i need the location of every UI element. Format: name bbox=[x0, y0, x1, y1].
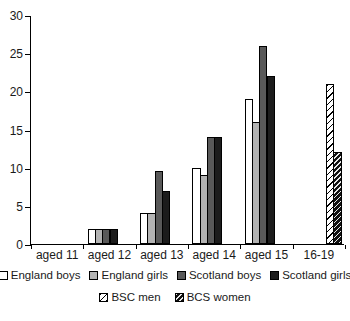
legend-item-scotland-girls: Scotland girls bbox=[270, 268, 350, 282]
x-axis-label-aged-14: aged 14 bbox=[188, 248, 240, 262]
legend-swatch-scotland-boys bbox=[177, 271, 186, 280]
legend-label: BCS women bbox=[187, 290, 251, 304]
legend-label: Scotland boys bbox=[189, 268, 261, 282]
bar-scotland-girls-aged-14 bbox=[214, 137, 222, 244]
y-axis-tick-label: 25 bbox=[0, 48, 23, 60]
legend-swatch-england-boys bbox=[0, 271, 8, 280]
legend-label: Scotland girls bbox=[282, 268, 350, 282]
legend-swatch-bsc-men bbox=[99, 293, 108, 302]
legend-swatch-bcs-women bbox=[175, 293, 184, 302]
legend-label: England boys bbox=[11, 268, 81, 282]
y-axis-tick-label: 15 bbox=[0, 125, 23, 137]
legend-swatch-england-girls bbox=[89, 271, 98, 280]
bar-scotland-girls-aged-15 bbox=[267, 76, 275, 244]
y-axis-tick bbox=[25, 16, 31, 17]
y-axis-tick bbox=[25, 169, 31, 170]
x-axis-label-16-19: 16-19 bbox=[293, 248, 345, 262]
y-axis-tick-label: 0 bbox=[0, 239, 23, 251]
legend-item-scotland-boys: Scotland boys bbox=[177, 268, 261, 282]
bar-bcs-women-16-19 bbox=[333, 152, 341, 244]
legend-swatch-scotland-girls bbox=[270, 271, 279, 280]
y-axis-tick bbox=[25, 207, 31, 208]
plot-area: 051015202530aged 11aged 12aged 13aged 14… bbox=[30, 16, 344, 245]
x-axis-label-aged-11: aged 11 bbox=[31, 248, 83, 262]
bar-chart: 051015202530aged 11aged 12aged 13aged 14… bbox=[0, 0, 350, 321]
y-axis-tick-label: 20 bbox=[0, 86, 23, 98]
legend-label: BSC men bbox=[111, 290, 160, 304]
y-axis-tick bbox=[25, 54, 31, 55]
legend-label: England girls bbox=[101, 268, 167, 282]
y-axis-tick-label: 5 bbox=[0, 201, 23, 213]
legend-item-bcs-women: BCS women bbox=[175, 290, 251, 304]
legend-row-1: England boysEngland girlsScotland boysSc… bbox=[0, 268, 350, 282]
y-axis-tick-label: 30 bbox=[0, 10, 23, 22]
y-axis-tick-label: 10 bbox=[0, 163, 23, 175]
bar-scotland-girls-aged-13 bbox=[162, 191, 170, 244]
legend-item-england-boys: England boys bbox=[0, 268, 80, 282]
legend-item-england-girls: England girls bbox=[89, 268, 167, 282]
x-axis-label-aged-12: aged 12 bbox=[83, 248, 135, 262]
y-axis-tick bbox=[25, 131, 31, 132]
legend-item-bsc-men: BSC men bbox=[99, 290, 160, 304]
x-axis-label-aged-13: aged 13 bbox=[136, 248, 188, 262]
bar-scotland-girls-aged-12 bbox=[110, 229, 118, 244]
y-axis-tick bbox=[25, 92, 31, 93]
x-axis-tick bbox=[345, 245, 346, 249]
legend-row-2: BSC menBCS women bbox=[0, 290, 350, 304]
x-axis-label-aged-15: aged 15 bbox=[240, 248, 292, 262]
